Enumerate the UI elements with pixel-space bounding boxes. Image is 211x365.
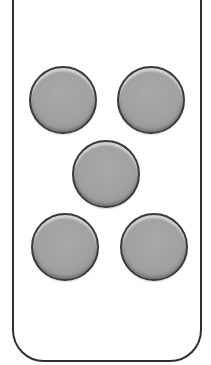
button-top-left[interactable]	[29, 66, 97, 134]
button-bottom-left[interactable]	[31, 213, 99, 281]
button-top-right[interactable]	[117, 66, 185, 134]
button-center[interactable]	[72, 140, 140, 208]
remote-diagram	[0, 0, 211, 365]
button-bottom-right[interactable]	[120, 213, 188, 281]
